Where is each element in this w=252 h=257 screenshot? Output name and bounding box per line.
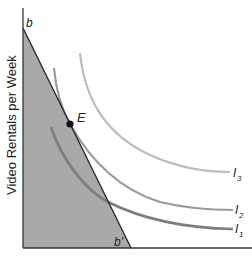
indifference-curve-diagram: b b' E I 3 I 2 I 1 Video Rentals per Wee… xyxy=(0,0,252,257)
y-axis-label: Video Rentals per Week xyxy=(4,55,19,195)
svg-text:2: 2 xyxy=(238,211,244,220)
label-i3: I 3 xyxy=(233,166,242,183)
label-i1: I 1 xyxy=(235,222,243,239)
equilibrium-label: E xyxy=(77,110,86,125)
svg-text:3: 3 xyxy=(237,174,242,183)
equilibrium-point xyxy=(66,120,73,127)
svg-text:1: 1 xyxy=(239,230,243,239)
label-i2: I 2 xyxy=(235,203,244,220)
budget-start-label: b xyxy=(26,16,33,30)
budget-end-label: b' xyxy=(114,235,124,249)
indifference-curve-i3 xyxy=(80,53,230,172)
